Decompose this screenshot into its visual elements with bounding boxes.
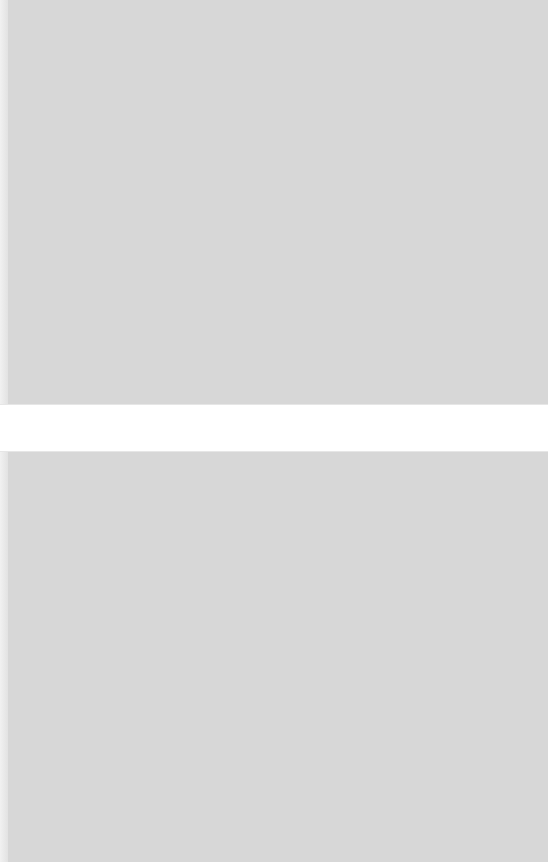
blank-screen [0, 0, 548, 862]
white-band [0, 404, 548, 452]
gray-overlay-bottom [8, 452, 548, 862]
gray-overlay-top [8, 0, 548, 404]
